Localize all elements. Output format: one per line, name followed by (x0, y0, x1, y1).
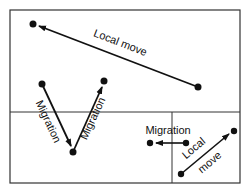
local-move-label: Local move (92, 27, 149, 58)
migration-diagram: Local move Migration Migration Migration… (0, 0, 245, 192)
move-label: move (195, 149, 223, 175)
local-label: Local (179, 135, 207, 161)
origin-dot (30, 21, 37, 28)
migration-small-arrow: Migration (145, 124, 190, 146)
migration-v-arrows: Migration Migration (34, 78, 108, 156)
local-move-top-arrow: Local move (30, 21, 202, 91)
origin-dot (195, 84, 202, 91)
migration-small-label: Migration (145, 124, 190, 136)
migration-label-right: Migration (77, 95, 107, 141)
